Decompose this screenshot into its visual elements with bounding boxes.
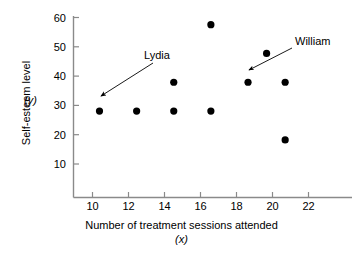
y-axis-symbol: (y) — [24, 94, 37, 106]
y-tick-label-60: 60 — [44, 12, 66, 23]
y-tick-label-20: 20 — [44, 129, 66, 140]
data-points — [96, 21, 289, 143]
x-axis-title: Number of treatment sessions attended (x… — [0, 218, 363, 246]
y-tick-label-50: 50 — [44, 41, 66, 52]
x-tick-label-14: 14 — [158, 201, 170, 212]
annotation-label-lydia: Lydia — [144, 50, 170, 61]
scatter-plot-figure: 60 50 40 30 20 10 10 12 14 16 18 20 22 S… — [0, 0, 363, 253]
data-point — [282, 79, 289, 86]
x-axis-title-text: Number of treatment sessions attended — [85, 219, 278, 231]
y-axis-ticks — [74, 18, 80, 165]
data-point — [96, 107, 103, 114]
y-tick-label-30: 30 — [44, 100, 66, 111]
data-point — [170, 79, 177, 86]
data-point — [263, 50, 270, 57]
y-tick-label-10: 10 — [44, 159, 66, 170]
annotation-label-william: William — [295, 36, 330, 47]
data-point — [244, 79, 251, 86]
x-tick-label-20: 20 — [266, 201, 278, 212]
data-point — [282, 136, 289, 143]
x-tick-label-22: 22 — [302, 201, 314, 212]
x-tick-label-18: 18 — [230, 201, 242, 212]
data-point — [207, 21, 214, 28]
data-point — [170, 107, 177, 114]
data-point — [207, 107, 214, 114]
x-tick-label-16: 16 — [194, 201, 206, 212]
x-axis-ticks — [93, 192, 309, 198]
x-axis-symbol: (x) — [0, 232, 363, 246]
william-arrow — [249, 48, 292, 70]
lydia-arrow — [101, 63, 153, 96]
x-tick-label-10: 10 — [86, 201, 98, 212]
data-point — [133, 107, 140, 114]
y-tick-label-40: 40 — [44, 71, 66, 82]
x-tick-label-12: 12 — [122, 201, 134, 212]
